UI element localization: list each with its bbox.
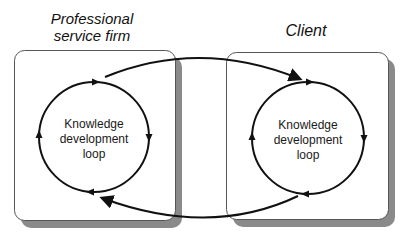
left-title-line1: Professional bbox=[51, 10, 134, 27]
loop-label-line2: development bbox=[274, 133, 343, 147]
diagram-canvas: Professional service firm Client Knowled… bbox=[0, 0, 412, 239]
loop-label-line2: development bbox=[60, 132, 129, 146]
loop-label-line1: Knowledge bbox=[278, 118, 338, 132]
left-title-line2: service firm bbox=[54, 27, 131, 44]
loop-label-line1: Knowledge bbox=[64, 117, 124, 131]
right-title: Client bbox=[286, 22, 327, 39]
loop-label-line3: loop bbox=[297, 148, 320, 162]
loop-label-line3: loop bbox=[83, 147, 106, 161]
